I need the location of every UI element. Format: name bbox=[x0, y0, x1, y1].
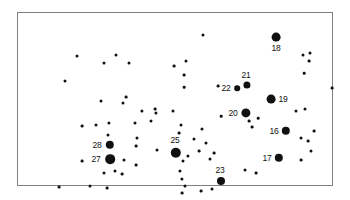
data-point bbox=[100, 100, 103, 103]
data-point bbox=[248, 120, 251, 123]
data-point bbox=[308, 60, 311, 63]
data-point-labelled bbox=[171, 148, 181, 158]
data-point bbox=[178, 169, 181, 172]
data-point bbox=[76, 55, 79, 58]
point-label: 17 bbox=[262, 154, 271, 163]
data-point bbox=[81, 125, 84, 128]
data-point bbox=[95, 124, 98, 127]
data-point bbox=[123, 159, 126, 162]
data-point bbox=[115, 54, 118, 57]
data-point bbox=[202, 34, 205, 37]
data-point bbox=[135, 145, 138, 148]
data-point bbox=[184, 185, 187, 188]
scatter-figure: 1617181920212223252728 bbox=[0, 0, 350, 200]
data-point bbox=[103, 62, 106, 65]
data-point bbox=[244, 169, 247, 172]
data-point bbox=[125, 96, 128, 99]
data-point bbox=[200, 190, 203, 193]
data-point bbox=[89, 185, 92, 188]
data-point bbox=[114, 170, 117, 173]
point-label: 21 bbox=[241, 71, 250, 80]
data-point-labelled bbox=[217, 177, 225, 185]
point-label: 25 bbox=[170, 136, 179, 145]
data-point bbox=[58, 186, 61, 189]
data-point bbox=[128, 62, 131, 65]
data-point bbox=[220, 115, 223, 118]
data-point bbox=[201, 128, 204, 131]
data-point bbox=[103, 172, 106, 175]
data-point bbox=[209, 158, 212, 161]
data-point bbox=[183, 74, 186, 77]
data-point bbox=[251, 126, 254, 129]
data-point-labelled bbox=[275, 154, 283, 162]
data-point bbox=[136, 137, 139, 140]
point-label: 18 bbox=[271, 44, 280, 53]
data-point bbox=[183, 86, 186, 89]
data-point bbox=[154, 111, 157, 114]
data-point bbox=[295, 110, 298, 113]
data-point bbox=[150, 120, 153, 123]
data-point bbox=[81, 160, 84, 163]
data-point bbox=[303, 72, 306, 75]
data-point bbox=[310, 150, 313, 153]
data-point bbox=[300, 137, 303, 140]
point-label: 16 bbox=[269, 127, 278, 136]
data-point bbox=[205, 142, 208, 145]
data-point bbox=[106, 187, 109, 190]
data-point bbox=[180, 177, 183, 180]
data-point bbox=[180, 124, 183, 127]
data-point bbox=[300, 159, 303, 162]
data-point-labelled bbox=[106, 141, 114, 149]
data-point bbox=[186, 154, 189, 157]
data-point bbox=[304, 108, 307, 111]
data-point bbox=[185, 60, 188, 63]
point-label: 19 bbox=[278, 95, 287, 104]
data-point bbox=[309, 52, 312, 55]
data-point bbox=[154, 108, 157, 111]
data-point-labelled bbox=[105, 154, 115, 164]
data-point bbox=[302, 54, 305, 57]
data-point bbox=[107, 121, 110, 124]
data-point bbox=[198, 150, 201, 153]
plot-frame: 1617181920212223252728 bbox=[17, 12, 333, 186]
data-point-labelled bbox=[241, 108, 250, 117]
data-point bbox=[140, 109, 143, 112]
data-point bbox=[172, 110, 175, 113]
data-point bbox=[181, 192, 184, 195]
data-point bbox=[313, 130, 316, 133]
data-point bbox=[217, 85, 220, 88]
point-label: 28 bbox=[92, 141, 101, 150]
data-point bbox=[134, 122, 137, 125]
data-point bbox=[173, 65, 176, 68]
data-point-labelled bbox=[243, 81, 250, 88]
data-point bbox=[213, 152, 216, 155]
data-point bbox=[211, 188, 214, 191]
data-point-labelled bbox=[282, 127, 290, 135]
point-label: 23 bbox=[215, 166, 224, 175]
data-point bbox=[182, 160, 185, 163]
data-point bbox=[135, 164, 138, 167]
point-label: 22 bbox=[221, 84, 230, 93]
data-point bbox=[331, 87, 334, 90]
data-point bbox=[255, 172, 258, 175]
data-point bbox=[193, 138, 196, 141]
data-point bbox=[121, 173, 124, 176]
point-label: 27 bbox=[91, 155, 100, 164]
data-point bbox=[122, 102, 125, 105]
point-label: 20 bbox=[228, 109, 237, 118]
data-point bbox=[64, 80, 67, 83]
data-point-labelled bbox=[234, 85, 240, 91]
data-point-labelled bbox=[272, 33, 281, 42]
data-point-labelled bbox=[267, 95, 276, 104]
data-point bbox=[107, 134, 110, 137]
data-point bbox=[156, 149, 159, 152]
data-point bbox=[307, 140, 310, 143]
data-point bbox=[257, 117, 260, 120]
